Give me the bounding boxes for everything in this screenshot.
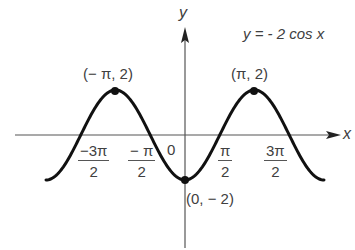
point-right-peak xyxy=(250,87,258,95)
tick-neg-3pi-2: −3π 2 xyxy=(78,143,109,179)
tick-pi-2: π 2 xyxy=(218,143,232,179)
x-axis-label: x xyxy=(343,126,351,142)
point-left-peak xyxy=(111,87,119,95)
y-axis-label: y xyxy=(179,5,187,21)
tick-neg-pi-2: − π 2 xyxy=(128,143,155,179)
right-peak-label: (π, 2) xyxy=(231,66,268,81)
equation-label: y = - 2 cos x xyxy=(243,26,324,41)
origin-label: 0 xyxy=(167,142,175,157)
point-min xyxy=(181,176,189,184)
equation-text: y = - 2 cos x xyxy=(243,25,324,42)
left-peak-label: (− π, 2) xyxy=(83,66,133,81)
tick-3pi-2: 3π 2 xyxy=(264,143,287,179)
min-point-label: (0, − 2) xyxy=(186,191,234,206)
